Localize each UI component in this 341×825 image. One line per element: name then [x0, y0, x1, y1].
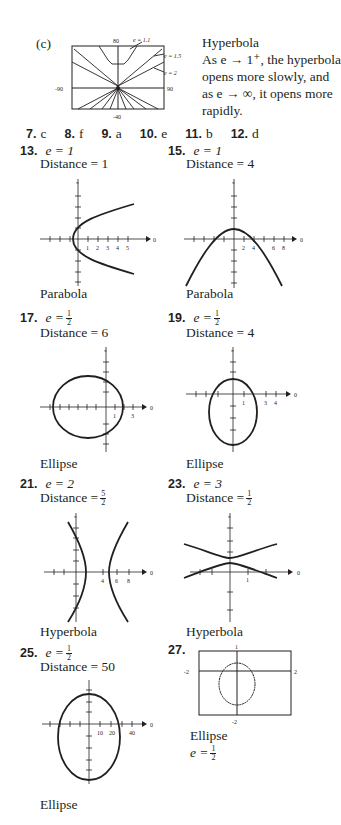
svg-text:40: 40	[129, 730, 135, 736]
svg-text:4: 4	[252, 245, 255, 251]
svg-text:6: 6	[272, 245, 275, 251]
svg-text:6: 6	[115, 578, 118, 584]
svg-text:2: 2	[242, 245, 245, 251]
svg-text:4: 4	[101, 578, 104, 584]
problem-27-type: Ellipse	[190, 728, 228, 744]
svg-text:0: 0	[150, 405, 153, 411]
svg-text:3: 3	[264, 400, 267, 406]
problem-27-eccentricity: e =12	[190, 745, 216, 762]
window-ymax: 1	[235, 644, 238, 650]
graph-ymin: -40	[113, 114, 121, 120]
svg-text:π: π	[231, 348, 234, 353]
svg-text:0: 0	[300, 237, 303, 243]
description-title: Hyperbola	[202, 34, 341, 51]
problem-15-distance: Distance = 4	[186, 156, 254, 172]
window-ymin: -2	[232, 719, 237, 725]
problem-21-type: Hyperbola	[40, 624, 97, 640]
svg-text:20: 20	[109, 730, 115, 736]
svg-text:0: 0	[150, 722, 153, 728]
window-xmin: -2	[184, 669, 189, 675]
svg-text:π: π	[228, 514, 231, 519]
svg-text:π: π	[76, 180, 79, 185]
graph-23-hyperbola: 1 0 π	[180, 508, 320, 626]
svg-text:10: 10	[97, 730, 103, 736]
svg-text:0: 0	[294, 392, 297, 398]
description-line-3: as e → ∞, it opens more	[202, 85, 341, 102]
svg-text:π: π	[74, 514, 77, 519]
svg-text:1: 1	[246, 577, 249, 583]
graph-21-hyperbola: 4 6 8 0 π	[30, 508, 160, 626]
svg-text:0: 0	[297, 570, 300, 576]
window-xmax: 2	[294, 669, 297, 675]
description-line-1: As e → 1⁺, the hyperbola	[202, 51, 341, 68]
graph-13-parabola: 1 2 3 4 5 0 π	[30, 174, 160, 292]
svg-text:0: 0	[150, 570, 153, 576]
graph-ymax: 80	[113, 38, 119, 44]
problem-17-distance: Distance = 6	[40, 325, 108, 341]
svg-text:3: 3	[106, 245, 109, 251]
problem-25-distance: Distance = 50	[40, 659, 115, 675]
svg-text:π: π	[232, 180, 235, 185]
description-line-4: rapidly.	[202, 102, 341, 119]
problem-15-type: Parabola	[186, 286, 233, 302]
graph-27-calculator-ellipse: 1 -2 -2 2	[180, 644, 320, 732]
graph-17-ellipse: 1 3 0 π	[30, 342, 160, 454]
fraction-one-half: 12	[246, 490, 252, 507]
svg-text:0: 0	[153, 237, 156, 243]
svg-text:1: 1	[113, 413, 116, 419]
problem-23-type: Hyperbola	[186, 624, 243, 640]
svg-text:8: 8	[282, 245, 285, 251]
label-e-1-1: e = 1.1	[133, 37, 150, 43]
label-e-2: e = 2	[164, 70, 177, 76]
problem-23-distance: Distance =12	[186, 490, 252, 507]
problem-17-type: Ellipse	[40, 456, 78, 472]
part-c-label: (c)	[36, 36, 51, 52]
label-e-1-5: e = 1.5	[164, 53, 181, 59]
svg-text:5: 5	[126, 245, 129, 251]
fraction-one-half: 12	[210, 745, 216, 762]
graph-15-parabola: 2 4 6 8 0 π	[180, 174, 320, 292]
problem-19-header: 19. e =12	[168, 308, 220, 327]
problem-19-distance: Distance = 4	[186, 325, 254, 341]
svg-text:4: 4	[274, 400, 277, 406]
problem-13-type: Parabola	[40, 286, 87, 302]
svg-text:3: 3	[131, 413, 134, 419]
description-line-2: opens more slowly, and	[202, 68, 341, 85]
problem-19-type: Ellipse	[186, 456, 224, 472]
svg-text:8: 8	[127, 578, 130, 584]
problem-21-distance: Distance =52	[40, 490, 106, 507]
problem-25-type: Ellipse	[40, 797, 78, 813]
svg-text:π: π	[104, 348, 107, 353]
problem-17-header: 17. e =12	[20, 308, 72, 327]
graph-xmax: 90	[167, 86, 173, 92]
graph-25-ellipse: 10 20 40 0	[30, 676, 160, 786]
svg-text:1: 1	[86, 245, 89, 251]
svg-text:1: 1	[242, 400, 245, 406]
graph-19-ellipse: 1 3 4 0 π	[180, 342, 320, 454]
fraction-five-halves: 52	[100, 490, 106, 507]
svg-text:2: 2	[96, 245, 99, 251]
graph-xmin: -90	[55, 86, 63, 92]
calculator-graph-hyperbolas: 80 -40 -90 90 e = 1.1 e = 1.5 e = 2	[50, 34, 200, 124]
matching-answers: 7.c 8.f 9.a 10.e 11.b 12.d	[26, 124, 259, 142]
hyperbola-description: Hyperbola As e → 1⁺, the hyperbola opens…	[202, 34, 341, 119]
svg-text:4: 4	[116, 245, 119, 251]
problem-13-distance: Distance = 1	[40, 156, 108, 172]
